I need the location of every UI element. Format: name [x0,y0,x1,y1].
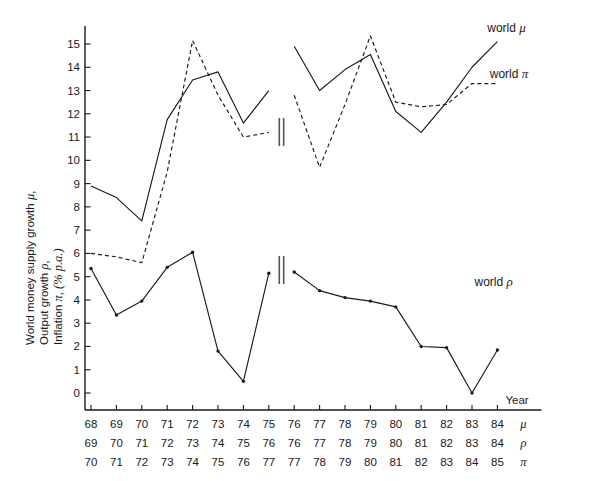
x-axis-tick-label: 73 [186,437,199,449]
y-axis-tick-label: 12 [67,108,80,120]
x-axis-tick-label: 82 [415,456,428,468]
x-axis-tick-label: 72 [186,418,199,430]
y-axis-tick-label: 11 [68,131,80,143]
data-point-marker [242,380,245,383]
x-axis-tick-label: 77 [313,418,326,430]
x-axis-row-symbol: π [520,455,527,469]
data-point-marker [293,270,296,273]
x-axis-title: Year [505,394,528,406]
x-axis-tick-label: 83 [466,437,479,449]
data-point-marker [191,251,194,254]
x-axis-tick-label: 71 [161,418,174,430]
x-axis-tick-label: 82 [440,437,453,449]
data-point-marker [267,271,270,274]
x-axis-tick-label: 77 [313,437,326,449]
data-point-marker [166,266,169,269]
x-axis-tick-label: 77 [288,456,301,468]
y-axis-title-line: World money supply growth μ, [23,191,37,345]
x-axis-tick-label: 76 [288,418,301,430]
x-axis-tick-label: 80 [389,418,402,430]
y-axis-title-line: Output growth ρ, [37,260,51,345]
y-axis-tick-label: 9 [74,178,80,190]
x-axis-tick-label: 84 [491,437,504,449]
x-axis-tick-label: 69 [110,418,123,430]
data-point-marker [216,349,219,352]
x-axis-tick-label: 72 [161,437,174,449]
y-axis-tick-label: 15 [67,38,80,50]
y-axis-tick-label: 0 [74,387,80,399]
x-axis-tick-label: 76 [262,437,275,449]
x-axis-tick-label: 80 [389,437,402,449]
x-axis-tick-label: 81 [415,437,428,449]
x-axis-tick-label: 84 [491,418,504,430]
x-axis-tick-label: 70 [85,456,98,468]
y-axis-title-group: World money supply growth μ,Output growt… [23,191,65,345]
x-axis-tick-label: 73 [161,456,174,468]
x-axis-tick-label: 75 [212,456,225,468]
data-point-marker [115,313,118,316]
data-point-marker [318,289,321,292]
series-group [89,36,499,395]
y-axis-tick-label: 2 [74,340,80,352]
annotations-group: world μworld πworld ρYear [474,20,529,406]
data-point-marker [496,348,499,351]
axis-labels-group: 6869707172737475767778798081828384μ69707… [85,417,528,469]
x-axis-tick-label: 75 [262,418,275,430]
x-axis-row-symbol: μ [519,417,526,431]
x-axis-tick-label: 70 [110,437,123,449]
y-axis-tick-label: 1 [74,364,80,376]
x-axis-tick-label: 80 [364,456,377,468]
data-point-marker [343,296,346,299]
x-axis-tick-label: 81 [415,418,428,430]
data-point-marker [420,345,423,348]
data-point-marker [445,346,448,349]
y-axis-tick-label: 8 [74,201,80,213]
x-axis-tick-label: 73 [212,418,225,430]
y-axis-tick-label: 10 [67,154,80,166]
data-point-marker [394,305,397,308]
chart-figure: 0123456789101112131415 68697071727374757… [0,0,591,481]
x-axis-tick-label: 83 [466,418,479,430]
data-point-marker [470,391,473,394]
series-annotation-μ: world μ [486,20,526,35]
x-axis-tick-label: 79 [339,456,352,468]
x-axis-tick-label: 76 [288,437,301,449]
series-line-world-π [91,41,269,263]
x-axis-tick-label: 71 [135,437,148,449]
x-axis-tick-label: 85 [491,456,504,468]
y-axis-tick-label: 14 [67,61,80,73]
y-axis-tick-label: 13 [67,85,80,97]
series-line-world-μ [91,72,269,221]
x-axis-tick-label: 74 [237,418,250,430]
x-axis-tick-label: 78 [339,418,352,430]
chart-canvas: 0123456789101112131415 68697071727374757… [0,0,591,481]
x-axis-tick-label: 79 [364,437,377,449]
y-axis-tick-label: 3 [74,317,80,329]
x-axis-tick-label: 76 [237,456,250,468]
x-axis-tick-label: 75 [237,437,250,449]
x-axis-row-symbol: ρ [519,436,526,450]
x-axis-tick-label: 84 [466,456,479,468]
series-line-world-ρ [91,252,269,381]
data-point-marker [89,267,92,270]
x-axis-tick-label: 74 [186,456,199,468]
series-annotation-π: world π [489,66,529,81]
x-axis-tick-label: 72 [135,456,148,468]
data-point-marker [369,299,372,302]
axis-break-group [279,118,283,284]
x-axis-tick-label: 68 [85,418,98,430]
series-line-world-ρ [294,272,497,393]
x-axis-tick-label: 81 [389,456,402,468]
data-point-marker [140,299,143,302]
x-axis-tick-label: 78 [313,456,326,468]
y-axis-tick-label: 7 [74,224,80,236]
x-axis-tick-label: 74 [212,437,225,449]
x-axis-tick-label: 82 [440,418,453,430]
x-axis-tick-label: 79 [364,418,377,430]
y-axis-tick-label: 5 [74,271,80,283]
x-axis-tick-label: 78 [339,437,352,449]
x-axis-tick-label: 77 [262,456,275,468]
x-axis-tick-label: 69 [85,437,98,449]
series-line-world-π [294,36,497,167]
series-annotation-ρ: world ρ [474,274,513,289]
